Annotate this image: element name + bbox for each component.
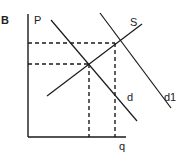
diagram-canvas: B P q S d d1 (0, 0, 184, 161)
demand-shifted-label: d1 (164, 91, 176, 103)
supply-demand-diagram: B P q S d d1 (0, 0, 184, 161)
supply-curve (47, 24, 142, 96)
x-axis-label: q (119, 140, 125, 152)
demand-label: d (127, 91, 133, 103)
panel-label: B (1, 14, 9, 26)
demand-curve (51, 20, 137, 121)
y-axis-label: P (34, 14, 41, 26)
supply-label: S (130, 16, 137, 28)
